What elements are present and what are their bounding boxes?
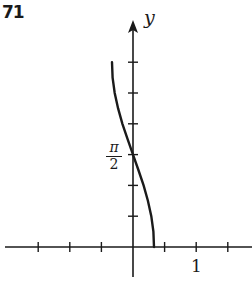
plot-area (0, 0, 252, 286)
y-axis-label: y (144, 6, 155, 28)
x-tick-label-1: 1 (191, 256, 202, 276)
fraction-numerator: π (106, 140, 122, 157)
y-tick-label-pi-over-2: π 2 (106, 140, 122, 172)
fraction-denominator: 2 (106, 157, 122, 172)
